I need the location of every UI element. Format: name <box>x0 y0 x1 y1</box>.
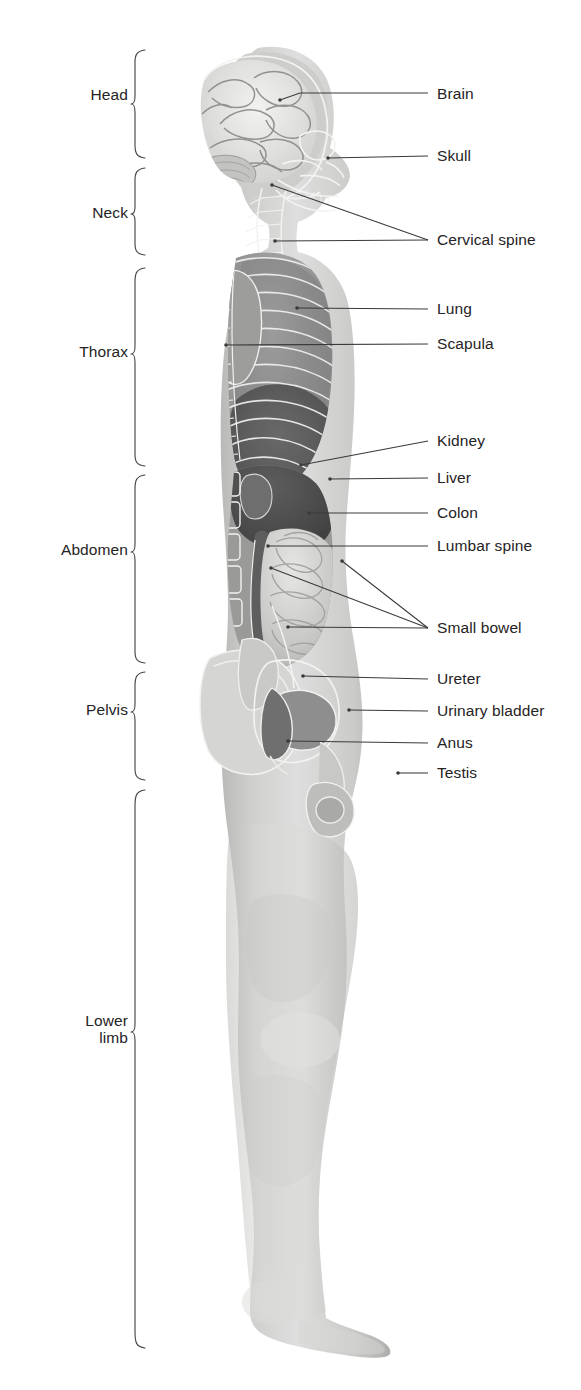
brace-thorax <box>131 268 145 466</box>
organ-label-urinary-bladder: Urinary bladder <box>437 702 544 720</box>
organ-label-lung: Lung <box>437 300 472 318</box>
organ-label-colon: Colon <box>437 504 478 522</box>
organ-label-skull: Skull <box>437 147 471 165</box>
organ-label-lumbar-spine: Lumbar spine <box>437 537 532 555</box>
organ-label-brain: Brain <box>437 85 474 103</box>
anatomy-figure: Head Neck Thorax Abdomen Pelvis Lower li… <box>0 0 581 1390</box>
organ-label-anus: Anus <box>437 734 473 752</box>
organ-label-ureter: Ureter <box>437 670 481 688</box>
brace-head <box>131 50 145 158</box>
region-label-lower-limb: Lower limb <box>85 1012 128 1046</box>
brace-neck <box>131 168 145 255</box>
organ-label-liver: Liver <box>437 469 471 487</box>
region-braces-layer <box>0 0 581 1390</box>
region-label-pelvis: Pelvis <box>86 701 128 718</box>
organ-label-kidney: Kidney <box>437 432 485 450</box>
region-label-neck: Neck <box>92 204 128 221</box>
organ-label-testis: Testis <box>437 764 477 782</box>
organ-label-cervical-spine: Cervical spine <box>437 231 536 249</box>
organ-label-scapula: Scapula <box>437 335 494 353</box>
brace-pelvis <box>131 672 145 780</box>
region-label-thorax: Thorax <box>79 343 128 360</box>
brace-lower-limb <box>131 790 145 1348</box>
region-label-abdomen: Abdomen <box>61 541 128 558</box>
organ-label-small-bowel: Small bowel <box>437 619 522 637</box>
region-label-head: Head <box>91 86 128 103</box>
brace-abdomen <box>131 475 145 663</box>
